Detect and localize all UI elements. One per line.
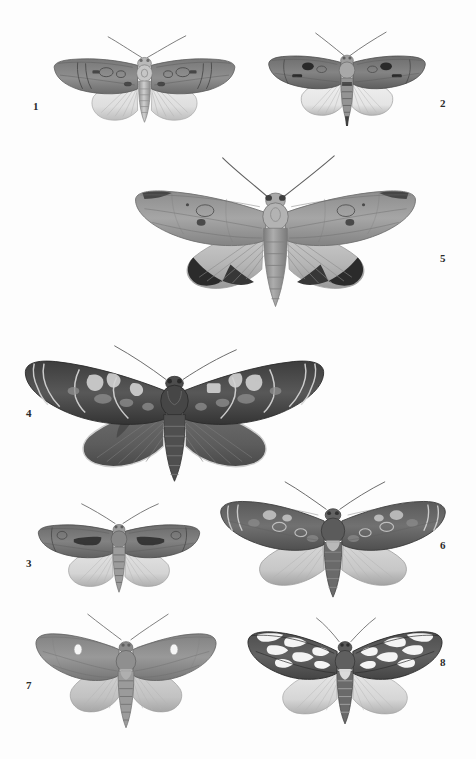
specimen-7-illustration	[31, 608, 221, 736]
specimen-3-illustration	[30, 496, 208, 606]
specimen-1-illustration	[46, 28, 243, 138]
figure-label-1: 1	[33, 101, 39, 112]
specimen-8	[244, 612, 446, 732]
figure-label-2: 2	[440, 98, 446, 109]
figure-label-3: 3	[26, 558, 32, 569]
figure-label-4: 4	[26, 408, 32, 419]
specimen-7	[31, 608, 221, 736]
specimen-4	[18, 340, 331, 495]
specimen-2	[261, 26, 433, 138]
specimen-1	[46, 28, 243, 138]
figure-label-7: 7	[26, 680, 32, 691]
specimen-2-illustration	[261, 26, 433, 138]
specimen-5	[128, 150, 423, 330]
specimen-6-illustration	[214, 478, 452, 603]
specimen-8-illustration	[244, 612, 446, 732]
specimen-3	[30, 496, 208, 606]
specimen-4-illustration	[18, 340, 331, 495]
figure-label-8: 8	[440, 657, 446, 668]
specimen-6	[214, 478, 452, 603]
figure-label-5: 5	[440, 253, 446, 264]
specimen-5-illustration	[128, 150, 423, 330]
moth-specimen-plate: 1	[0, 0, 476, 759]
figure-label-6: 6	[440, 540, 446, 551]
